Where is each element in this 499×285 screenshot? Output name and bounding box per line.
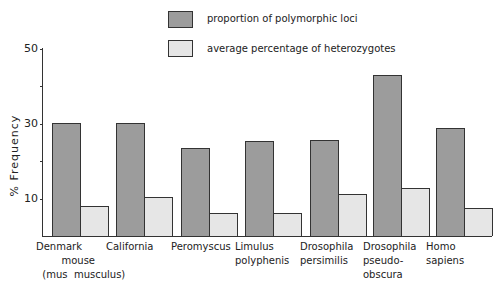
bar-heterozygotes (464, 208, 493, 236)
bar-heterozygotes (80, 206, 109, 236)
y-tick (40, 49, 43, 50)
legend-label-polymorphic-loci: proportion of polymorphic loci (207, 13, 358, 24)
category-label: Drosophila persimilis (300, 240, 362, 268)
bar-heterozygotes (401, 188, 430, 236)
bar-polymorphic-loci (52, 123, 81, 236)
category-label: Limulus polyphenis (235, 240, 297, 268)
y-tick (40, 124, 43, 125)
y-tick (40, 199, 43, 200)
x-axis (42, 236, 492, 237)
y-tick-label: 10 (12, 192, 38, 205)
bar-chart: proportion of polymorphic loci average p… (0, 0, 499, 285)
category-label: California (106, 240, 168, 254)
y-minor-tick (40, 86, 43, 87)
category-label: Homo sapiens (426, 240, 488, 268)
bar-heterozygotes (144, 197, 173, 236)
category-label: Drosophila pseudo- obscura (363, 240, 425, 282)
bar-heterozygotes (209, 213, 238, 236)
category-label: Peromyscus (171, 240, 233, 254)
bar-heterozygotes (273, 213, 302, 236)
y-axis (42, 48, 43, 237)
y-minor-tick (40, 161, 43, 162)
bar-polymorphic-loci (373, 75, 402, 236)
bar-polymorphic-loci (245, 141, 274, 236)
bar-polymorphic-loci (310, 140, 339, 236)
y-tick-label: 30 (12, 117, 38, 130)
bar-heterozygotes (338, 194, 367, 236)
legend-swatch-heterozygotes (168, 40, 193, 57)
bar-polymorphic-loci (436, 128, 465, 236)
legend-label-heterozygotes: average percentage of heterozygotes (207, 43, 396, 54)
y-tick-label: 50 (12, 42, 38, 55)
bar-polymorphic-loci (181, 148, 210, 236)
legend-swatch-polymorphic-loci (168, 11, 193, 28)
bar-polymorphic-loci (116, 123, 145, 236)
